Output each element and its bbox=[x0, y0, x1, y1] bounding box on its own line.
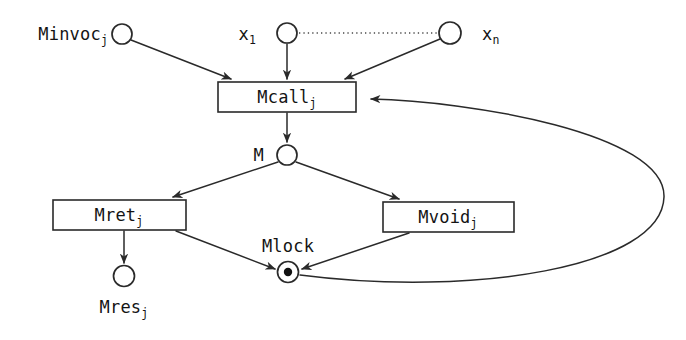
petri-net-diagram: Mcallj Mretj Mvoidj Minvocj x1 bbox=[0, 0, 686, 340]
arc-mlock-to-mcall-feedback bbox=[300, 99, 664, 282]
transition-mcall-label: Mcallj bbox=[257, 87, 316, 110]
place-layer: Minvocj x1 xn M Mlock Mresj bbox=[38, 22, 499, 320]
arc-minvoc-to-mcall bbox=[131, 40, 231, 79]
place-mres[interactable] bbox=[114, 266, 135, 287]
arc-layer bbox=[124, 33, 664, 282]
place-minvoc-label: Minvocj bbox=[38, 24, 108, 47]
place-minvoc[interactable] bbox=[112, 24, 132, 44]
place-x1[interactable] bbox=[277, 23, 297, 43]
place-xn[interactable] bbox=[439, 22, 461, 44]
place-m[interactable] bbox=[277, 145, 297, 165]
arc-m-to-mvoid bbox=[296, 162, 399, 199]
place-m-label: M bbox=[254, 145, 264, 165]
arc-mvoid-to-mlock bbox=[302, 233, 409, 269]
arc-xn-to-mcall bbox=[345, 39, 440, 79]
place-mlock-token bbox=[284, 268, 292, 276]
place-xn-label: xn bbox=[482, 24, 500, 47]
petri-net-canvas: Mcallj Mretj Mvoidj Minvocj x1 bbox=[0, 0, 686, 340]
place-mlock-label: Mlock bbox=[262, 236, 314, 256]
arc-m-to-mret bbox=[173, 162, 278, 197]
transition-mvoid-label: Mvoidj bbox=[418, 207, 477, 230]
place-x1-label: x1 bbox=[238, 24, 256, 47]
arc-mret-to-mlock bbox=[176, 231, 275, 269]
place-mres-label: Mresj bbox=[100, 297, 149, 320]
transition-mret-label: Mretj bbox=[95, 205, 144, 228]
